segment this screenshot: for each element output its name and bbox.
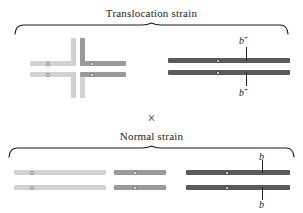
- normal-dark-chromosome-pair: b b: [186, 152, 303, 208]
- allele-label-b-upper: b: [259, 152, 264, 162]
- normal-dark-chromatid-lower: [186, 185, 290, 190]
- centromere-left-lower: [46, 73, 50, 77]
- cross-vertical-upper-left-arm: [71, 38, 76, 62]
- dark-chromatid-lower: [168, 70, 290, 75]
- translocation-dark-chromosome-pair: b+ b+: [168, 0, 303, 110]
- centromere-left-upper: [46, 62, 50, 66]
- genetics-translocation-figure: Translocation strain: [0, 0, 303, 213]
- centromere-right-upper: [90, 62, 94, 66]
- cross-horizontal-upper-right-arm: [80, 61, 126, 66]
- cross-vertical-upper-right-arm: [80, 38, 85, 62]
- allele-label-b-lower: b: [259, 200, 264, 210]
- allele-label-b-plus-upper: b+: [239, 36, 248, 46]
- centromere-medium-lower: [133, 186, 137, 190]
- light-chromatid-upper: [14, 170, 106, 175]
- allele-label-b-plus-lower: b+: [239, 88, 248, 98]
- allele-superscript-upper: +: [244, 34, 248, 42]
- medium-chromatid-lower: [114, 185, 166, 190]
- marker-tick-upper: [246, 47, 247, 61]
- cross-horizontal-lower-right-arm: [80, 72, 126, 77]
- medium-chromatid-upper: [114, 170, 166, 175]
- centromere-normal-dark-lower: [225, 186, 229, 190]
- cross-horizontal-lower-left-arm: [30, 72, 76, 77]
- light-chromatid-lower: [14, 185, 106, 190]
- cross-horizontal-upper-left-arm: [30, 61, 76, 66]
- dark-chromatid-upper: [168, 58, 290, 63]
- centromere-dark-lower: [216, 71, 220, 75]
- marker-tick-lower: [246, 72, 247, 86]
- centromere-light-lower: [30, 186, 34, 190]
- centromere-medium-upper: [133, 171, 137, 175]
- translocation-cross-configuration: [0, 0, 160, 110]
- centromere-normal-dark-upper: [225, 171, 229, 175]
- centromere-light-upper: [30, 171, 34, 175]
- normal-light-chromosome-pair: [14, 160, 110, 200]
- normal-medium-chromosome-pair: [114, 160, 174, 200]
- centromere-right-lower: [90, 73, 94, 77]
- normal-strain-title: Normal strain: [0, 131, 303, 142]
- allele-superscript-lower: +: [244, 86, 248, 94]
- cross-symbol: ×: [0, 112, 303, 126]
- centromere-dark-upper: [216, 59, 220, 63]
- normal-dark-chromatid-upper: [186, 170, 290, 175]
